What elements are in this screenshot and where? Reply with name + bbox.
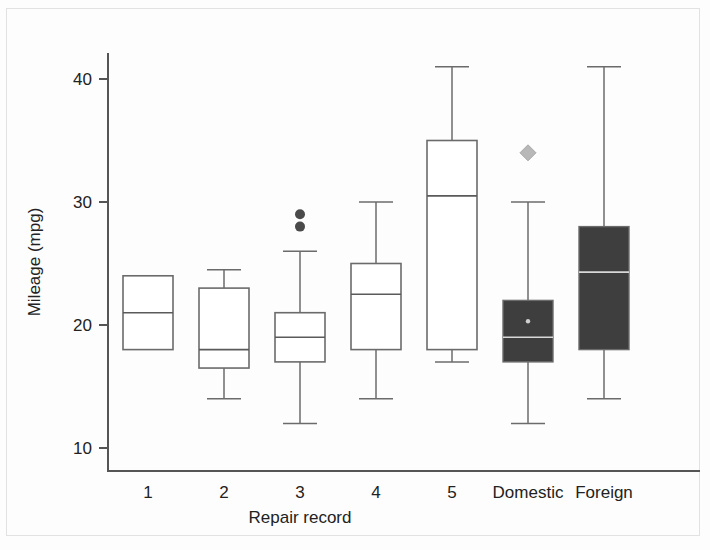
box-rect [427, 141, 477, 350]
outlier-point [295, 209, 305, 219]
x-axis-title: Repair record [249, 508, 352, 527]
box-rect [579, 227, 629, 350]
box-plot-group [123, 276, 173, 350]
y-axis-title: Mileage (mpg) [25, 208, 44, 317]
y-tick-label: 10 [73, 439, 92, 458]
box-rect [199, 288, 249, 368]
box-plot-group [351, 202, 401, 399]
y-tick-label: 20 [73, 316, 92, 335]
x-tick-label: Domestic [493, 483, 564, 502]
box-rect [503, 300, 553, 362]
box-plot-group [503, 145, 553, 424]
box-plot-group [199, 270, 249, 399]
box-plot-group [275, 209, 325, 423]
boxplot-figure: 10203040Mileage (mpg)12345DomesticForeig… [0, 0, 710, 550]
outlier-point [295, 222, 305, 232]
mean-marker [526, 319, 530, 323]
box-rect [351, 264, 401, 350]
box-plot-group [579, 67, 629, 399]
x-tick-label: Foreign [575, 483, 633, 502]
y-tick-label: 30 [73, 193, 92, 212]
boxplot-canvas: 10203040Mileage (mpg)12345DomesticForeig… [0, 0, 710, 550]
y-tick-label: 40 [73, 70, 92, 89]
box-plot-group [427, 67, 477, 362]
x-tick-label: 5 [447, 483, 456, 502]
outlier-point-diamond [520, 145, 536, 161]
x-tick-label: 1 [143, 483, 152, 502]
x-tick-label: 4 [371, 483, 380, 502]
x-tick-label: 2 [219, 483, 228, 502]
x-tick-label: 3 [295, 483, 304, 502]
